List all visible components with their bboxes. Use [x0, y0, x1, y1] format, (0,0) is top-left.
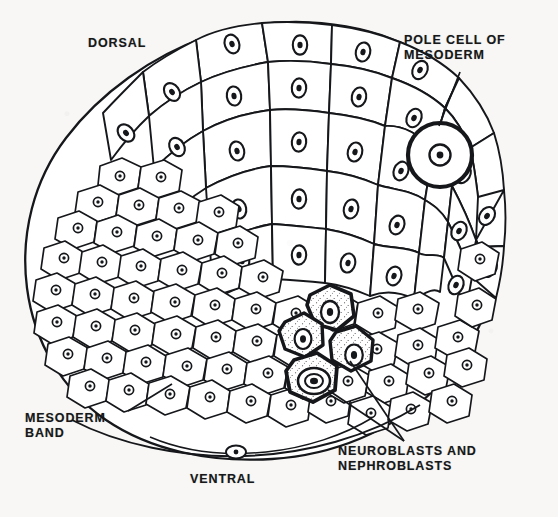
label-ventral: VENTRAL	[190, 472, 255, 487]
figure-page: DORSAL POLE CELL OF MESODERM MESODERM BA…	[0, 0, 558, 517]
pole-cell-of-mesoderm	[408, 123, 472, 187]
label-pole-cell-of-mesoderm: POLE CELL OF MESODERM	[404, 33, 506, 62]
label-dorsal: DORSAL	[88, 36, 146, 51]
label-neuroblasts-and-nephroblasts: NEUROBLASTS AND NEPHROBLASTS	[338, 444, 477, 473]
label-mesoderm-band: MESODERM BAND	[25, 411, 106, 440]
